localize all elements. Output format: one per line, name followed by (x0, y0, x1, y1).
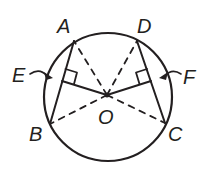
label-o: O (98, 106, 114, 128)
label-e: E (12, 64, 26, 86)
circle-chords-diagram: A D E F B O C (0, 0, 207, 169)
label-d: D (137, 15, 151, 37)
label-c: C (168, 123, 183, 145)
label-a: A (56, 15, 70, 37)
label-b: B (29, 123, 42, 145)
leader-arrowhead-f (159, 72, 168, 80)
center-point-o (105, 93, 110, 98)
label-f: F (183, 66, 197, 88)
